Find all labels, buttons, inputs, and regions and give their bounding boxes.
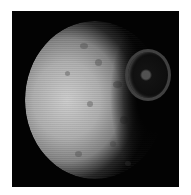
crater <box>75 151 82 157</box>
crater <box>65 71 70 76</box>
image-frame <box>12 11 179 187</box>
large-crater <box>125 49 171 101</box>
crater <box>80 43 88 49</box>
